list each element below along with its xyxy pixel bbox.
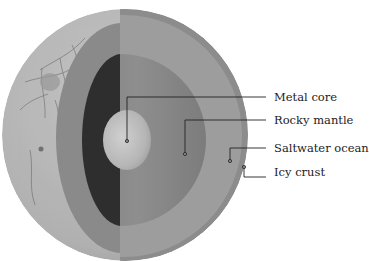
- dot-metal-core: [125, 139, 128, 142]
- label-metal-core: Metal core: [274, 90, 337, 104]
- label-saltwater-ocean: Saltwater ocean: [274, 141, 369, 155]
- leader-icy-crust: [244, 167, 266, 177]
- label-icy-crust: Icy crust: [274, 165, 325, 179]
- dot-rocky-mantle: [183, 152, 186, 155]
- dot-saltwater-ocean: [228, 159, 231, 162]
- dot-icy-crust: [242, 165, 245, 168]
- surface-spot: [40, 73, 60, 91]
- label-rocky-mantle: Rocky mantle: [274, 113, 353, 127]
- surface-crater: [39, 147, 44, 152]
- moon-sphere: [2, 9, 248, 261]
